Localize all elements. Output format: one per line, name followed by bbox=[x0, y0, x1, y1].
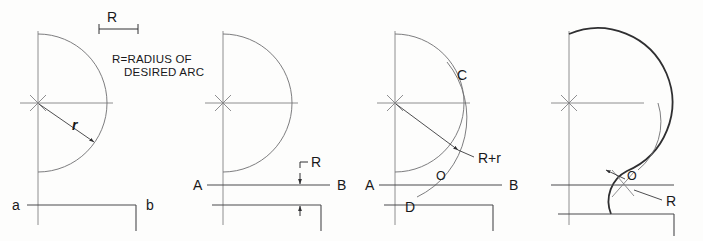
drawing-canvas: R R=RADIUS OF DESIRED ARC r a b A B R A … bbox=[0, 0, 703, 241]
panel-c-geometry bbox=[377, 31, 502, 231]
panel-c-radius-sum-tail bbox=[458, 150, 474, 157]
panel-a-dimension-label: R bbox=[107, 9, 117, 25]
panel-b-point-a-label: A bbox=[193, 177, 203, 193]
panel-c-center-label: O bbox=[436, 169, 446, 183]
panel-a-radius-leader bbox=[39, 104, 94, 142]
panel-d-ogee-curve bbox=[569, 28, 672, 214]
panel-c-radius-sum-label: R+r bbox=[478, 150, 501, 166]
panel-c-point-a-label: A bbox=[365, 177, 375, 193]
panel-d-radius-label: R bbox=[666, 193, 676, 209]
panel-a-note-line-1: R=RADIUS OF bbox=[112, 53, 192, 65]
panel-b-offset-label: R bbox=[311, 154, 321, 170]
panel-d-radius-leader bbox=[634, 190, 662, 200]
panel-a-note-line-2: DESIRED ARC bbox=[124, 66, 204, 78]
technical-drawing-sheet: R R=RADIUS OF DESIRED ARC r a b A B R A … bbox=[0, 0, 703, 241]
panel-d-geometry bbox=[551, 28, 674, 236]
panel-d-offset-curve bbox=[638, 103, 661, 170]
panel-d-center-label: O bbox=[627, 169, 637, 183]
panel-c-radius-sum-leader bbox=[396, 104, 458, 150]
panel-a-corner-label-right: b bbox=[146, 197, 154, 213]
panel-c-point-c-label: C bbox=[457, 67, 467, 83]
panel-c-point-d-label: D bbox=[405, 199, 415, 215]
panel-a-corner-label-left: a bbox=[12, 197, 20, 213]
panel-c-point-b-label: B bbox=[509, 177, 518, 193]
panel-b-point-b-label: B bbox=[337, 177, 346, 193]
panel-b-geometry bbox=[205, 31, 330, 231]
